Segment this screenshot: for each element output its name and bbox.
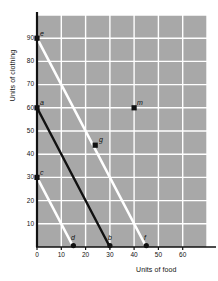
x-tick-40: 40: [126, 251, 142, 258]
x-tick-20: 20: [78, 251, 94, 258]
y-tick-50: 50: [18, 127, 34, 134]
point-label-d: d: [71, 234, 75, 241]
x-tick-30: 30: [102, 251, 118, 258]
marker-m: [132, 105, 137, 110]
y-tick-20: 20: [18, 197, 34, 204]
y-tick-10: 10: [18, 220, 34, 227]
point-label-e: e: [40, 30, 44, 37]
x-axis-title: Units of food: [136, 266, 177, 273]
y-tick-40: 40: [18, 150, 34, 157]
y-tick-30: 30: [18, 173, 34, 180]
chart-figure: 90 80 70 60 50 40 30 20 10 0 10 20 30 40…: [0, 0, 218, 281]
y-tick-70: 70: [18, 80, 34, 87]
marker-a: [34, 105, 39, 110]
point-label-c: c: [40, 169, 44, 176]
point-label-a: a: [40, 99, 44, 106]
y-tick-90: 90: [18, 34, 34, 41]
marker-c: [34, 175, 39, 180]
marker-e: [34, 36, 39, 41]
point-label-g: g: [99, 136, 103, 143]
y-tick-80: 80: [18, 57, 34, 64]
point-label-m: m: [137, 99, 143, 106]
x-tick-0: 0: [29, 251, 45, 258]
x-tick-10: 10: [53, 251, 69, 258]
x-tick-60: 60: [175, 251, 191, 258]
marker-f: [144, 243, 149, 248]
y-axis-title: Units of clothing: [9, 37, 16, 115]
y-tick-60: 60: [18, 104, 34, 111]
marker-g: [93, 143, 98, 148]
x-tick-50: 50: [150, 251, 166, 258]
point-label-f: f: [144, 234, 146, 241]
marker-d: [71, 243, 76, 248]
point-label-b: b: [108, 234, 112, 241]
